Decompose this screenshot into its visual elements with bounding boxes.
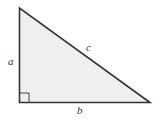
- triangle-shape: [20, 8, 151, 103]
- side-label-c: c: [86, 41, 91, 53]
- side-label-b: b: [77, 104, 83, 116]
- right-triangle-diagram: a b c: [0, 0, 160, 120]
- side-label-a: a: [8, 55, 14, 67]
